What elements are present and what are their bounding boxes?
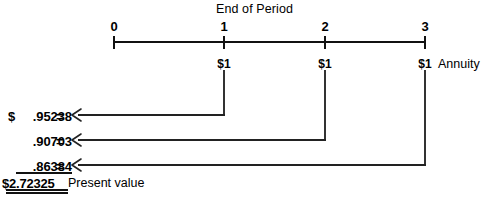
arrow-shaft-period-1 <box>78 114 225 116</box>
timeline-tick-1 <box>223 36 225 49</box>
equals-sign-period-1: = <box>56 110 64 123</box>
arrow-shaft-period-3 <box>78 164 426 166</box>
cut-off-header-text <box>4 0 154 4</box>
timeline-tick-3 <box>424 36 426 49</box>
tick-label-2: 2 <box>315 20 335 33</box>
drop-line-period-2 <box>324 70 326 141</box>
tick-label-1: 1 <box>214 20 234 33</box>
cash-flow-label-period-1: $1 <box>209 58 239 70</box>
sum-rule <box>16 172 72 174</box>
tick-label-0: 0 <box>104 20 124 33</box>
drop-line-period-1 <box>223 70 225 116</box>
total-double-underline-top <box>6 189 68 191</box>
timeline-tick-2 <box>324 36 326 49</box>
arrowhead-period-1 <box>70 107 84 123</box>
tick-label-3: 3 <box>415 20 435 33</box>
total-double-underline-bottom <box>6 192 68 194</box>
drop-line-period-3 <box>424 70 426 166</box>
equals-sign-period-2: = <box>56 135 64 148</box>
arrow-shaft-period-2 <box>78 139 326 141</box>
timeline-axis <box>114 41 426 43</box>
cash-flow-label-period-2: $1 <box>310 58 340 70</box>
present-value-annuity-diagram: End of Period 0 1 2 3 $1 $1 $1 Annuity <box>0 0 487 198</box>
present-value-label: Present value <box>68 177 144 190</box>
arrowhead-period-3 <box>70 157 84 173</box>
timeline-tick-0 <box>113 36 115 49</box>
annuity-label: Annuity <box>438 58 480 71</box>
cash-flow-label-period-3: $1 <box>410 58 440 70</box>
arrowhead-period-2 <box>70 132 84 148</box>
axis-title: End of Period <box>216 3 293 16</box>
